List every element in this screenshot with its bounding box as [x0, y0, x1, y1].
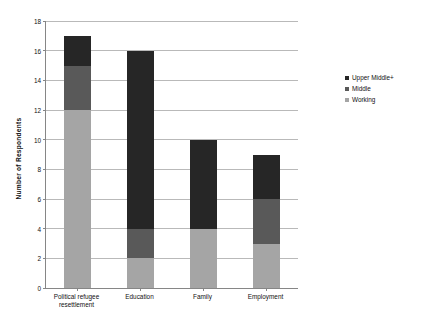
legend-item[interactable]: Middle	[345, 83, 431, 94]
x-axis-tick-mark	[203, 288, 204, 291]
legend-swatch-icon	[345, 87, 349, 91]
y-axis-tick-mark	[43, 21, 46, 22]
bar-segment[interactable]	[64, 66, 91, 111]
bar-segment[interactable]	[190, 229, 217, 288]
y-axis-tick-mark	[43, 258, 46, 259]
y-axis-tick-label: 2	[37, 255, 41, 262]
legend-swatch-icon	[345, 76, 349, 80]
chart-legend: Upper Middle+MiddleWorking	[345, 72, 431, 105]
legend-label: Working	[352, 96, 375, 103]
x-axis-label: Political refugeeresettlement	[45, 293, 108, 310]
x-axis-tick-mark	[77, 288, 78, 291]
y-axis-tick-mark	[43, 110, 46, 111]
y-axis-tick-mark	[43, 288, 46, 289]
bar-segment[interactable]	[253, 244, 280, 289]
y-axis-tick-label: 14	[34, 77, 41, 84]
x-axis-label-line: Employment	[234, 293, 297, 301]
x-axis-label-line: Family	[171, 293, 234, 301]
x-axis-label: Family	[171, 293, 234, 301]
x-axis-label-line: resettlement	[45, 301, 108, 309]
bar-segment[interactable]	[253, 199, 280, 244]
y-axis-tick-mark	[43, 228, 46, 229]
y-axis-tick-mark	[43, 199, 46, 200]
y-axis-tick-mark	[43, 80, 46, 81]
y-axis-tick-mark	[43, 169, 46, 170]
bar-stack[interactable]	[253, 21, 280, 288]
legend-swatch-icon	[345, 98, 349, 102]
x-axis-tick-mark	[266, 288, 267, 291]
legend-label: Middle	[352, 85, 371, 92]
stacked-bar-chart: Number of Respondents 024681012141618 Po…	[0, 0, 433, 331]
bar-segment[interactable]	[127, 229, 154, 259]
x-axis-label-line: Political refugee	[45, 293, 108, 301]
bar-segment[interactable]	[127, 51, 154, 229]
bar-segment[interactable]	[190, 140, 217, 229]
y-axis-tick-label: 12	[34, 107, 41, 114]
bar-segment[interactable]	[253, 155, 280, 200]
legend-label: Upper Middle+	[352, 74, 394, 81]
x-axis-label: Education	[108, 293, 171, 301]
y-axis-tick-label: 8	[37, 166, 41, 173]
y-axis-tick-label: 0	[37, 285, 41, 292]
y-axis-tick-label: 10	[34, 136, 41, 143]
bar-stack[interactable]	[127, 21, 154, 288]
bar-segment[interactable]	[64, 110, 91, 288]
legend-item[interactable]: Upper Middle+	[345, 72, 431, 83]
x-axis-label-line: Education	[108, 293, 171, 301]
x-axis-label: Employment	[234, 293, 297, 301]
y-axis-tick-mark	[43, 139, 46, 140]
bar-segment[interactable]	[64, 36, 91, 66]
legend-item[interactable]: Working	[345, 94, 431, 105]
bar-stack[interactable]	[190, 21, 217, 288]
y-axis-tick-label: 4	[37, 225, 41, 232]
y-axis-title: Number of Respondents	[15, 89, 22, 229]
bar-segment[interactable]	[127, 258, 154, 288]
y-axis-tick-label: 16	[34, 47, 41, 54]
y-axis-tick-label: 6	[37, 196, 41, 203]
y-axis-tick-mark	[43, 50, 46, 51]
y-axis-tick-label: 18	[34, 18, 41, 25]
plot-area: 024681012141618	[45, 21, 298, 289]
x-axis-tick-mark	[140, 288, 141, 291]
bar-stack[interactable]	[64, 21, 91, 288]
